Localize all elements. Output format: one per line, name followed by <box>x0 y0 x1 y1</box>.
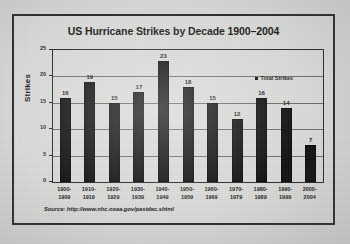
bar <box>305 145 316 182</box>
bar-column <box>109 50 120 182</box>
bar-value-label: 15 <box>106 95 122 101</box>
bar-value-label: 17 <box>131 84 147 90</box>
x-axis-tick-label: 1920-1929 <box>100 186 126 201</box>
x-axis-tick-label: 1980-1989 <box>248 186 274 201</box>
y-axis-tick-label: 0 <box>14 178 46 184</box>
plot-area: 161915172318151216147 <box>52 49 324 183</box>
bar-value-label: 19 <box>82 74 98 80</box>
bar-value-label: 14 <box>278 100 294 106</box>
x-axis-tick-line: 1919 <box>76 194 102 202</box>
x-axis-tick-line: 2004 <box>297 194 323 202</box>
y-axis-tick-label: 25 <box>14 46 46 52</box>
bar-column <box>60 50 71 182</box>
bar <box>133 92 144 182</box>
x-axis-tick-line: 1910- <box>76 186 102 194</box>
x-axis-tick-line: 1940- <box>149 186 175 194</box>
bar-value-label: 15 <box>205 95 221 101</box>
x-axis-tick-line: 1979 <box>223 194 249 202</box>
bar-column <box>207 50 218 182</box>
bar <box>232 119 243 182</box>
x-axis-tick-line: 1949 <box>149 194 175 202</box>
y-axis-tick-label: 10 <box>14 125 46 131</box>
y-axis-tick-label: 5 <box>14 152 46 158</box>
x-axis-tick-line: 1939 <box>125 194 151 202</box>
bar-column <box>305 50 316 182</box>
bar <box>109 103 120 182</box>
bar-value-label: 12 <box>229 111 245 117</box>
x-axis-tick-line: 1930- <box>125 186 151 194</box>
y-axis-title: Strikes <box>23 74 32 102</box>
chart-title: US Hurricane Strikes by Decade 1900–2004 <box>14 25 333 37</box>
bar-value-label: 16 <box>254 90 270 96</box>
x-axis-tick-line: 1960- <box>199 186 225 194</box>
x-axis-tick-label: 1930-1939 <box>125 186 151 201</box>
x-axis-tick-line: 1999 <box>272 194 298 202</box>
x-axis-tick-line: 1909 <box>51 194 77 202</box>
x-axis-tick-line: 1980- <box>248 186 274 194</box>
x-axis-tick-line: 1969 <box>199 194 225 202</box>
bar <box>207 103 218 182</box>
x-axis-tick-line: 1920- <box>100 186 126 194</box>
x-axis-tick-line: 1970- <box>223 186 249 194</box>
bar-value-label: 7 <box>303 137 319 143</box>
x-axis-tick-label: 1970-1979 <box>223 186 249 201</box>
bar-column <box>256 50 267 182</box>
y-axis-tick-label: 20 <box>14 72 46 78</box>
bar <box>158 61 169 182</box>
x-axis-tick-label: 1910-1919 <box>76 186 102 201</box>
bar-column <box>133 50 144 182</box>
bars-layer: 161915172318151216147 <box>53 50 323 182</box>
bar-value-label: 16 <box>57 90 73 96</box>
bar <box>84 82 95 182</box>
x-axis-tick-label: 1990-1999 <box>272 186 298 201</box>
x-axis-tick-line: 1950- <box>174 186 200 194</box>
bar-column <box>183 50 194 182</box>
x-axis-tick-line: 1900- <box>51 186 77 194</box>
bar-column <box>158 50 169 182</box>
x-axis-tick-line: 1959 <box>174 194 200 202</box>
chart-legend: Total Strikes <box>255 75 293 81</box>
bar-value-label: 18 <box>180 79 196 85</box>
x-axis-tick-line: 1990- <box>272 186 298 194</box>
legend-label: Total Strikes <box>261 75 294 81</box>
x-axis-tick-label: 1900-1909 <box>51 186 77 201</box>
bar <box>183 87 194 182</box>
y-axis-tick-label: 15 <box>14 99 46 105</box>
x-axis-tick-label: 2000-2004 <box>297 186 323 201</box>
bar-column <box>281 50 292 182</box>
bar <box>256 98 267 182</box>
x-axis-tick-line: 1929 <box>100 194 126 202</box>
x-axis-tick-label: 1940-1949 <box>149 186 175 201</box>
source-note: Source: http://www.nhc.noaa.gov/pastdec.… <box>44 206 174 212</box>
bar-value-label: 23 <box>155 53 171 59</box>
bar-column <box>84 50 95 182</box>
x-axis-tick-label: 1960-1969 <box>199 186 225 201</box>
x-axis-tick-label: 1950-1959 <box>174 186 200 201</box>
bar <box>281 108 292 182</box>
chart-frame: US Hurricane Strikes by Decade 1900–2004… <box>12 14 335 225</box>
x-axis-tick-line: 2000- <box>297 186 323 194</box>
bar <box>60 98 71 182</box>
x-axis-tick-line: 1989 <box>248 194 274 202</box>
legend-marker-icon <box>255 77 258 80</box>
